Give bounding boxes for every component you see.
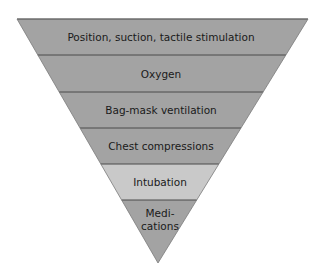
level-6-label-line2: cations bbox=[141, 220, 179, 232]
level-3-label: Bag-mask ventilation bbox=[105, 104, 216, 116]
level-1-label: Position, suction, tactile stimulation bbox=[67, 31, 254, 43]
level-4-label: Chest compressions bbox=[108, 140, 213, 152]
level-5-label: Intubation bbox=[133, 176, 187, 188]
resuscitation-pyramid: Position, suction, tactile stimulation O… bbox=[0, 0, 318, 277]
level-6-label-line1: Medi- bbox=[146, 207, 175, 219]
level-2-label: Oxygen bbox=[141, 68, 181, 80]
